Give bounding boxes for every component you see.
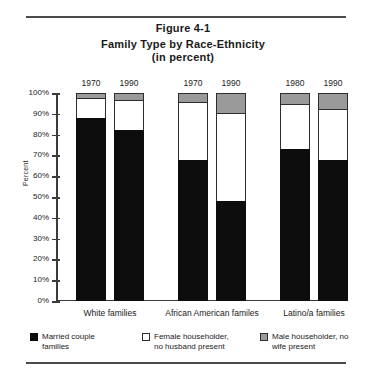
y-axis-tick-label: 70% (33, 151, 49, 159)
y-axis-tick (52, 218, 60, 220)
bar-segment-married-couple (318, 160, 348, 301)
bar-segment-male-householder (178, 93, 208, 103)
page-title: Family Type by Race-Ethnicity (0, 37, 366, 51)
bar-segment-male-householder (114, 93, 144, 101)
bar-stack[interactable] (114, 93, 144, 301)
y-axis-tick (52, 176, 60, 178)
y-axis-tick (52, 301, 60, 303)
y-axis-tick (52, 197, 60, 199)
bar-segment-married-couple (178, 160, 208, 301)
y-axis-tick (52, 114, 60, 116)
legend-swatch-gray-icon (260, 333, 268, 341)
bar-segment-female-householder (114, 101, 144, 130)
bar-segment-female-householder (178, 103, 208, 159)
x-axis-group-label: White families (84, 308, 137, 318)
bar-segment-male-householder (216, 93, 246, 114)
bar-year-label: 1990 (114, 78, 144, 88)
bar-segment-male-householder (280, 93, 310, 105)
bar-segment-female-householder (318, 110, 348, 160)
bar-stack[interactable] (318, 93, 348, 301)
legend-swatch-white-icon (142, 333, 150, 341)
bar-stack[interactable] (216, 93, 246, 301)
bar-segment-male-householder (318, 93, 348, 110)
y-axis-tick (52, 259, 60, 261)
bar-year-label: 1970 (178, 78, 208, 88)
y-axis-tick (52, 280, 60, 282)
y-axis-tick (52, 239, 60, 241)
figure-container: Figure 4-1 Family Type by Race-Ethnicity… (0, 0, 366, 382)
bar-segment-female-householder (280, 105, 310, 149)
bottom-rule (26, 362, 346, 364)
bar-segment-married-couple (76, 118, 106, 301)
x-axis-group-label: Latino/a families (283, 308, 344, 318)
x-axis-group-label: African American familes (165, 308, 259, 318)
legend-label: Married couple families (42, 332, 95, 351)
y-axis-tick (52, 155, 60, 157)
figure-titles: Figure 4-1 Family Type by Race-Ethnicity… (0, 21, 366, 64)
legend-swatch-black-icon (30, 333, 38, 341)
bar-stack[interactable] (178, 93, 208, 301)
bar-segment-female-householder (216, 114, 246, 201)
y-axis-tick-label: 100% (29, 89, 49, 97)
y-axis-tick-label: 20% (33, 255, 49, 263)
y-axis-tick-label: 50% (33, 193, 49, 201)
y-axis-tick-label: 60% (33, 172, 49, 180)
bar-year-label: 1990 (318, 78, 348, 88)
plot-area: 100%90%80%70%60%50%40%30%20%10%0% (56, 93, 344, 301)
chart-legend: Married couple families Female household… (30, 332, 356, 351)
y-axis-tick-label: 0% (37, 297, 49, 305)
y-axis-tick-label: 40% (33, 214, 49, 222)
bar-year-label: 1970 (76, 78, 106, 88)
y-axis-tick (52, 135, 60, 137)
legend-item-female-householder: Female householder, no husband present (142, 332, 260, 351)
bar-segment-married-couple (114, 130, 144, 301)
bar-segment-married-couple (216, 201, 246, 301)
y-axis-tick (52, 93, 60, 95)
y-axis-tick-label: 80% (33, 131, 49, 139)
bar-segment-married-couple (280, 149, 310, 301)
figure-number: Figure 4-1 (0, 21, 366, 35)
top-rule (26, 16, 346, 18)
bar-stack[interactable] (280, 93, 310, 301)
bar-year-label: 1990 (216, 78, 246, 88)
y-axis-tick-label: 90% (33, 110, 49, 118)
y-axis-title: Percent (22, 160, 29, 186)
y-axis-tick-label: 10% (33, 276, 49, 284)
legend-label: Male householder, no wife present (272, 332, 349, 351)
bar-year-label: 1980 (280, 78, 310, 88)
legend-item-male-householder: Male householder, no wife present (260, 332, 356, 351)
y-axis-tick-label: 30% (33, 235, 49, 243)
figure-subtitle: (in percent) (0, 51, 366, 64)
legend-label: Female householder, no husband present (154, 332, 229, 351)
legend-item-married-couple: Married couple families (30, 332, 142, 351)
bar-segment-female-householder (76, 99, 106, 118)
bar-stack[interactable] (76, 93, 106, 301)
